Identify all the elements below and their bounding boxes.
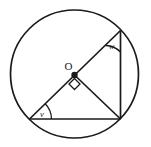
center-label-O: O: [65, 60, 73, 72]
geometry-canvas: O v w: [0, 0, 151, 147]
radius-line: [75, 75, 121, 119]
angle-v-arc: [45, 104, 52, 120]
geometry-figure: O v w: [0, 0, 151, 147]
center-point-dot: [71, 72, 77, 78]
angle-label-w: w: [109, 41, 115, 51]
angle-label-v: v: [40, 109, 44, 119]
